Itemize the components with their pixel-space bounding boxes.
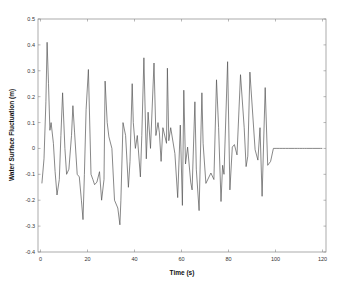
x-axis-label: Time (s)	[170, 269, 195, 277]
x-tick-label: 120	[318, 256, 327, 262]
y-tick-label: -0.2	[26, 197, 35, 203]
y-tick-label: 0.5	[27, 16, 35, 22]
y-tick-label: -0.4	[26, 249, 35, 255]
y-tick-label: -0.1	[26, 171, 35, 177]
line-chart: -0.4-0.3-0.2-0.100.10.20.30.40.5 0204060…	[0, 0, 344, 288]
x-tick-label: 20	[84, 256, 90, 262]
data-series-line	[42, 42, 322, 225]
x-tick-label: 80	[225, 256, 231, 262]
y-tick-label: -0.3	[26, 223, 35, 229]
plot-area	[38, 19, 326, 252]
y-tick-label: 0.4	[27, 42, 35, 48]
x-tick-label: 100	[271, 256, 280, 262]
y-axis: -0.4-0.3-0.2-0.100.10.20.30.40.5	[26, 16, 326, 255]
y-axis-label: Water Surface Fluctuation (m)	[8, 89, 16, 181]
x-tick-label: 40	[131, 256, 137, 262]
y-tick-label: 0.1	[27, 120, 35, 126]
y-tick-label: 0	[32, 145, 35, 151]
x-tick-label: 0	[39, 256, 42, 262]
y-tick-label: 0.3	[27, 68, 35, 74]
y-tick-label: 0.2	[27, 94, 35, 100]
x-tick-label: 60	[178, 256, 184, 262]
